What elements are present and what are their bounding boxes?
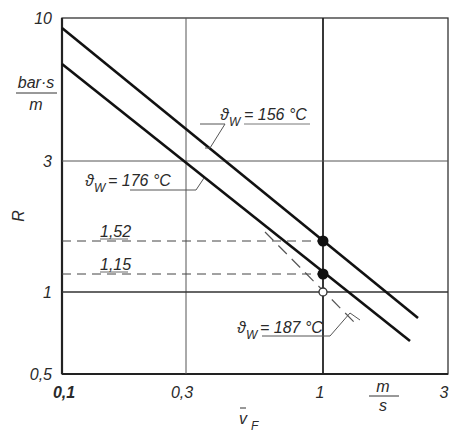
annotation-176C: ϑ W = 176 °C — [85, 172, 171, 195]
series-187C-line — [265, 232, 357, 325]
y-axis-label: R — [10, 210, 27, 222]
x-unit-denominator: s — [379, 397, 387, 414]
marker-100-open — [319, 288, 327, 296]
y-tick-1: 1 — [43, 284, 52, 301]
annotation-187C-subscript: W — [246, 328, 259, 342]
annotation-176C-value: = 176 °C — [108, 172, 171, 189]
x-tick-1: 1 — [316, 384, 325, 401]
marker-152 — [318, 236, 329, 247]
x-axis-label: v — [239, 410, 248, 427]
annotation-156C: ϑ W = 156 °C — [220, 106, 310, 129]
y-tick-10: 10 — [34, 10, 52, 27]
annotation-156C-value: = 156 °C — [244, 106, 307, 123]
y-unit-denominator: m — [29, 96, 42, 113]
x-axis-subscript: F — [251, 419, 259, 433]
y-tick-0.5: 0,5 — [30, 366, 52, 383]
plot-frame — [62, 18, 448, 374]
chart: 10 3 1 0,5 bar·s m R 0,1 0,3 1 3 m s v F… — [0, 0, 467, 441]
ref-label-152: 1,52 — [100, 223, 131, 240]
x-tick-3: 3 — [440, 384, 449, 401]
annotation-176C-subscript: W — [94, 181, 107, 195]
marker-115 — [318, 269, 329, 280]
ref-label-115: 1,15 — [100, 256, 131, 273]
annotation-187C: ϑ W = 187 °C — [237, 319, 323, 342]
x-tick-0.3: 0,3 — [171, 384, 193, 401]
y-unit-numerator: bar·s — [18, 74, 54, 91]
y-tick-3: 3 — [43, 153, 52, 170]
series-176C-line — [62, 64, 410, 341]
annotation-187C-value: = 187 °C — [260, 319, 323, 336]
x-unit-numerator: m — [376, 378, 389, 395]
annotation-156C-subscript: W — [229, 115, 242, 129]
x-tick-0.1: 0,1 — [53, 384, 75, 401]
